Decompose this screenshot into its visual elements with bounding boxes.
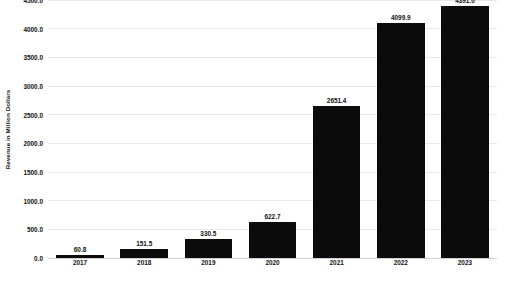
y-tick-label: 3000.0 (23, 83, 43, 90)
gridline (48, 86, 497, 87)
y-tick-label: 2000.0 (23, 140, 43, 147)
x-tick-label: 2018 (137, 259, 151, 266)
x-tick-label: 2022 (394, 259, 408, 266)
gridline (48, 143, 497, 144)
gridline (48, 172, 497, 173)
bar-value-label: 622.7 (264, 213, 280, 220)
y-tick-label: 1000.0 (23, 197, 43, 204)
y-axis-title: Revenue in Million Dollars (0, 0, 16, 258)
bar-value-label: 330.5 (200, 230, 216, 237)
gridline (48, 0, 497, 1)
y-tick-label: 500.0 (27, 226, 43, 233)
plot-area: 0.0500.01000.01500.02000.02500.03000.035… (48, 0, 497, 258)
gridline (48, 28, 497, 29)
bar[interactable]: 151.5 (120, 249, 167, 258)
y-axis-title-label: Revenue in Million Dollars (5, 89, 12, 169)
y-tick-label: 4000.0 (23, 25, 43, 32)
y-tick-label: 3500.0 (23, 54, 43, 61)
bar-value-label: 4391.0 (455, 0, 475, 4)
x-tick-label: 2019 (201, 259, 215, 266)
bar[interactable]: 4391.0 (441, 6, 488, 258)
bar[interactable]: 330.5 (185, 239, 232, 258)
y-tick-label: 0.0 (34, 255, 43, 262)
bar-chart: Revenue in Million Dollars 0.0500.01000.… (0, 0, 505, 283)
gridline (48, 114, 497, 115)
gridline (48, 57, 497, 58)
bar-value-label: 2651.4 (327, 97, 347, 104)
y-tick-label: 2500.0 (23, 111, 43, 118)
bar-value-label: 151.5 (136, 240, 152, 247)
bar-value-label: 4099.9 (391, 14, 411, 21)
y-tick-label: 1500.0 (23, 169, 43, 176)
bar[interactable]: 60.8 (56, 255, 103, 258)
x-tick-label: 2023 (458, 259, 472, 266)
x-tick-label: 2017 (73, 259, 87, 266)
y-tick-label: 4500.0 (23, 0, 43, 4)
bar-value-label: 60.8 (74, 246, 86, 253)
gridline (48, 200, 497, 201)
bar[interactable]: 2651.4 (313, 106, 360, 258)
bar[interactable]: 622.7 (249, 222, 296, 258)
bar[interactable]: 4099.9 (377, 23, 424, 258)
x-tick-label: 2021 (330, 259, 344, 266)
x-tick-label: 2020 (265, 259, 279, 266)
